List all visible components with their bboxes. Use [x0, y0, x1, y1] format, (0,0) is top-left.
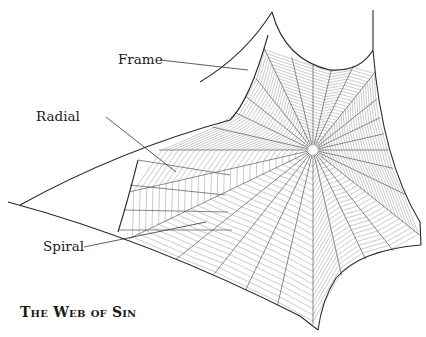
spiral-label: Spiral	[43, 240, 84, 254]
web-hub	[308, 145, 318, 155]
web-diagram: Frame Radial Spiral The Web of Sin	[0, 0, 426, 337]
frame-label: Frame	[118, 53, 163, 67]
radial-label: Radial	[36, 110, 80, 124]
spiral-threads	[133, 50, 419, 321]
label-leader-lines	[84, 60, 248, 247]
diagram-title: The Web of Sin	[20, 304, 136, 320]
spider-web-illustration	[0, 0, 426, 337]
